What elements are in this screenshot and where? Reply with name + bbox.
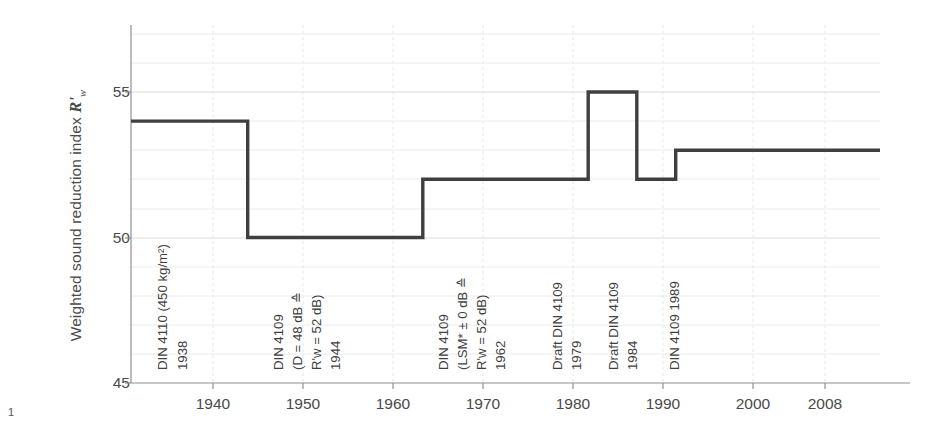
annotation-line: (LSM* ± 0 dB ≙ — [456, 277, 469, 370]
x-tick-marks — [213, 383, 825, 389]
footnote-marker: 1 — [8, 406, 14, 418]
annotation-line: Draft DIN 4109 — [607, 282, 620, 370]
annotation-line: DIN 4109 1989 — [668, 281, 681, 370]
grid-horizontal — [131, 34, 880, 354]
annotation-line: DIN 4110 (450 kg/m²) — [156, 244, 169, 370]
grid-horizontal-major — [131, 92, 880, 238]
data-step-line — [131, 92, 880, 238]
annotation-year: 1984 — [626, 341, 639, 370]
annotation-year: 1979 — [570, 341, 583, 370]
annotation-line: (D = 48 dB ≙ — [291, 292, 304, 370]
y-tick-marks — [125, 92, 131, 383]
chart-container: Weighted sound reduction index R'w 55 50… — [0, 0, 925, 438]
plot-area — [0, 0, 925, 438]
annotation-line: R'w = 52 dB) — [310, 295, 323, 370]
annotation-line: DIN 4109 — [272, 314, 285, 370]
annotation-line: R'w = 52 dB) — [475, 295, 488, 370]
annotation-year: 1938 — [176, 341, 189, 370]
annotation-line: Draft DIN 4109 — [551, 282, 564, 370]
annotation-year: 1944 — [329, 341, 342, 370]
annotation-line: DIN 4109 — [437, 314, 450, 370]
annotation-year: 1962 — [494, 341, 507, 370]
